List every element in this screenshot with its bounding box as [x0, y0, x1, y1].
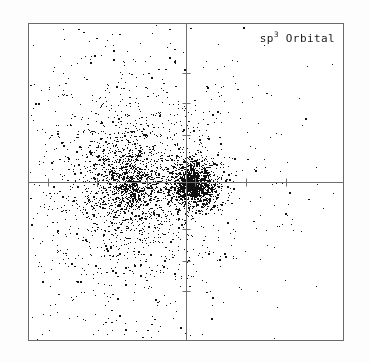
plot-frame: sp3 Orbital: [28, 23, 344, 341]
figure-page: sp3 Orbital: [0, 0, 370, 363]
orbital-label-prefix: sp: [260, 32, 274, 45]
orbital-label-suffix: Orbital: [279, 32, 335, 45]
scatter-plot-canvas: [29, 24, 343, 340]
orbital-label: sp3 Orbital: [260, 32, 335, 45]
